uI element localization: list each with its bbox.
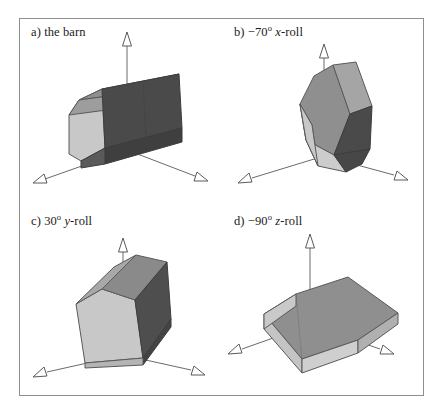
panel-d-z-roll: d) −90o z-roll [222,207,424,396]
panel-b-angle: −70 [248,25,268,39]
panel-a-drawing [19,18,222,207]
panel-a-label: a) the barn [31,26,86,40]
figure-root: a) the barn b [0,0,440,414]
panel-c-y-roll: c) 30o y-roll [19,207,222,396]
panel-b-label: b) −70o x-roll [234,26,303,40]
barn-solid-a [69,74,182,168]
panel-b-x-roll: b) −70o x-roll [222,18,424,207]
panel-b-suffix: -roll [281,25,303,39]
panel-c-suffix: -roll [70,214,92,228]
panel-d-marker: d) [234,214,245,228]
barn-solid-d [264,277,398,373]
panel-b-degree-symbol: o [268,23,272,33]
panel-d-label: d) −90o z-roll [234,215,302,229]
panel-a-marker: a) [31,25,41,39]
panel-b-marker: b) [234,25,245,39]
panel-c-degree-symbol: o [57,212,61,222]
panel-c-marker: c) [31,214,41,228]
panel-c-angle: 30 [44,214,57,228]
panel-b-drawing [222,18,424,207]
panel-d-angle: −90 [248,214,268,228]
barn-solid-c [76,255,171,368]
panel-a-the-barn: a) the barn [19,18,222,207]
panel-c-label: c) 30o y-roll [31,215,92,229]
panel-c-drawing [19,207,222,396]
barn-solid-b [300,62,372,172]
panel-d-drawing [222,207,424,396]
panel-d-degree-symbol: o [268,212,272,222]
panel-a-caption: the barn [44,25,85,39]
panel-d-suffix: -roll [280,214,302,228]
